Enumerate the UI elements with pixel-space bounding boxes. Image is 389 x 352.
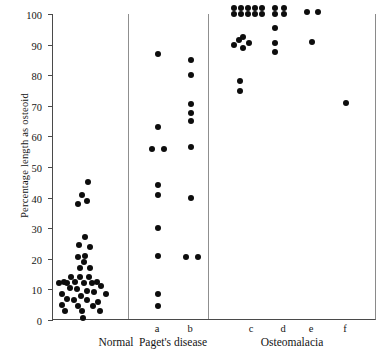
y-tick-label: 50 — [32, 163, 43, 174]
data-point — [231, 42, 237, 48]
data-point — [75, 201, 81, 207]
y-tick-mark: 0 — [48, 320, 53, 321]
data-point — [240, 45, 246, 51]
data-point — [188, 118, 194, 124]
y-tick-label: 70 — [32, 101, 43, 112]
panel-separator — [128, 14, 129, 319]
data-point — [236, 37, 242, 43]
data-point — [195, 254, 201, 260]
data-point — [259, 5, 265, 11]
y-tick-label: 40 — [32, 193, 43, 204]
data-point — [87, 244, 93, 250]
y-tick-mark: 20 — [48, 259, 53, 260]
data-point — [81, 280, 87, 286]
data-point — [155, 124, 161, 130]
data-point — [272, 25, 278, 31]
data-point — [155, 225, 161, 231]
data-point — [87, 265, 93, 271]
data-point — [56, 280, 62, 286]
data-point — [343, 100, 349, 106]
data-point — [188, 110, 194, 116]
data-point — [103, 291, 109, 297]
data-point — [304, 9, 310, 15]
data-point — [245, 5, 251, 11]
y-tick-mark: 60 — [48, 136, 53, 137]
x-group-label: Normal — [98, 336, 133, 348]
y-tick-label: 80 — [32, 71, 43, 82]
data-point — [90, 303, 96, 309]
y-tick-mark: 90 — [48, 45, 53, 46]
data-point — [231, 5, 237, 11]
data-point — [81, 259, 87, 265]
y-axis-label: Percentage length as osteoid — [19, 46, 30, 266]
data-point — [188, 144, 194, 150]
data-point — [188, 57, 194, 63]
data-point — [86, 274, 92, 280]
data-point — [76, 242, 82, 248]
x-sublabel-c: c — [249, 323, 254, 334]
y-tick-mark: 40 — [48, 198, 53, 199]
data-point — [281, 11, 287, 17]
data-point — [84, 198, 90, 204]
data-point — [79, 192, 85, 198]
data-point — [237, 78, 243, 84]
x-sublabel-f: f — [343, 323, 347, 334]
y-tick-label: 10 — [32, 285, 43, 296]
data-point — [188, 195, 194, 201]
data-point — [80, 315, 86, 321]
y-tick-mark: 50 — [48, 167, 53, 168]
data-point — [84, 297, 90, 303]
data-point — [231, 11, 237, 17]
data-point — [315, 9, 321, 15]
data-point — [155, 192, 161, 198]
y-tick-label: 60 — [32, 132, 43, 143]
y-tick-mark: 100 — [48, 14, 53, 15]
x-sublabel-b: b — [187, 323, 192, 334]
y-tick-mark: 10 — [48, 289, 53, 290]
y-tick-mark: 70 — [48, 106, 53, 107]
data-point — [252, 5, 258, 11]
data-point — [272, 40, 278, 46]
data-point — [74, 286, 80, 292]
data-point — [155, 291, 161, 297]
data-point — [183, 254, 189, 260]
data-point — [155, 303, 161, 309]
chart-figure: Percentage length as osteoid 01020304050… — [0, 0, 389, 352]
data-point — [95, 299, 101, 305]
panel-separator — [208, 14, 209, 319]
data-point — [98, 283, 104, 289]
data-point — [245, 11, 251, 17]
data-point — [237, 88, 243, 94]
data-point — [188, 72, 194, 78]
data-point — [309, 39, 315, 45]
data-point — [272, 11, 278, 17]
y-tick-label: 90 — [32, 40, 43, 51]
y-tick-label: 100 — [26, 10, 42, 21]
y-tick-label: 0 — [37, 316, 42, 327]
data-point — [77, 274, 83, 280]
data-point — [72, 279, 78, 285]
data-point — [75, 254, 81, 260]
data-point — [97, 308, 103, 314]
data-point — [64, 296, 70, 302]
x-group-label: Paget's disease — [139, 336, 207, 348]
data-point — [161, 146, 167, 152]
data-point — [79, 308, 85, 314]
data-point — [155, 253, 161, 259]
plot-area: 0102030405060708090100 — [52, 14, 376, 320]
x-sublabel-e: e — [309, 323, 314, 334]
y-tick-mark: 30 — [48, 228, 53, 229]
data-point — [71, 297, 77, 303]
data-point — [149, 146, 155, 152]
data-point — [78, 293, 84, 299]
data-point — [238, 5, 244, 11]
y-tick-mark: 80 — [48, 75, 53, 76]
data-point — [85, 179, 91, 185]
data-point — [272, 49, 278, 55]
x-group-label: Osteomalacia — [261, 336, 324, 348]
data-point — [155, 51, 161, 57]
data-point — [259, 11, 265, 17]
data-point — [84, 288, 90, 294]
y-tick-label: 20 — [32, 254, 43, 265]
data-point — [246, 40, 252, 46]
